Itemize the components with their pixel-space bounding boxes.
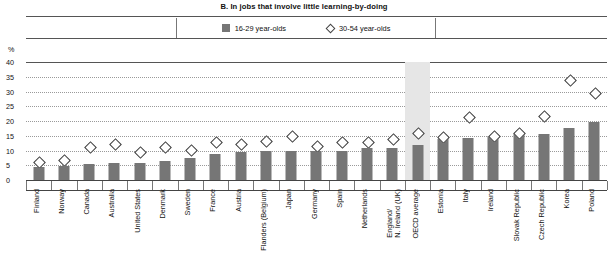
bar <box>437 139 448 180</box>
x-axis-tick <box>354 181 355 190</box>
category-text: Germany <box>311 189 319 219</box>
x-axis-category-label: Canada <box>83 189 95 215</box>
category-text: Austria <box>235 189 243 212</box>
x-axis-category-label: Korea <box>563 189 575 208</box>
x-axis-category-label: OECD average <box>412 189 424 238</box>
bar <box>362 148 373 180</box>
category-text: Netherlands <box>361 189 369 228</box>
bar <box>185 158 196 180</box>
chart-column <box>405 62 430 180</box>
category-text: Norway <box>58 189 66 214</box>
bar <box>336 151 347 181</box>
category-text: Japan <box>285 189 293 209</box>
x-axis-category-label: Japan <box>285 189 297 209</box>
chart-page: B. In jobs that involve little learning-… <box>0 0 608 271</box>
diamond-marker <box>261 135 274 148</box>
bar <box>235 152 246 180</box>
x-axis-category-label: Spain <box>336 189 348 208</box>
category-text: Denmark <box>159 189 167 219</box>
x-axis-tick <box>102 181 103 190</box>
x-axis-tick <box>152 181 153 190</box>
x-axis-tick <box>26 181 27 190</box>
chart-column <box>178 62 203 180</box>
series-layer <box>26 62 607 180</box>
x-axis-category-label: Italy <box>462 189 474 202</box>
x-axis-category-label: Australia <box>108 189 120 217</box>
chart-column <box>531 62 556 180</box>
y-tick-label-40: 40 <box>6 58 24 67</box>
x-axis-category-label: Netherlands <box>361 189 373 228</box>
y-tick-label-0: 0 <box>6 176 24 185</box>
chart-column <box>26 62 51 180</box>
chart-column <box>279 62 304 180</box>
x-axis-tick <box>380 181 381 190</box>
x-axis-tick <box>253 181 254 190</box>
bar <box>589 122 600 180</box>
y-tick-label-5: 5 <box>6 161 24 170</box>
bar <box>286 151 297 181</box>
y-tick-label-25: 25 <box>6 102 24 111</box>
chart-column <box>253 62 278 180</box>
x-axis-tick <box>556 181 557 190</box>
diamond-marker <box>160 142 173 155</box>
x-axis-tick <box>279 181 280 190</box>
chart-title: B. In jobs that involve little learning-… <box>0 2 608 11</box>
chart-column <box>152 62 177 180</box>
category-text: Sweden <box>184 189 192 215</box>
y-tick-label-20: 20 <box>6 117 24 126</box>
x-axis-category-label: Norway <box>58 189 70 214</box>
diamond-marker <box>134 146 147 159</box>
x-axis-tick <box>203 181 204 190</box>
category-text: United States <box>134 189 142 233</box>
title-underline-rule <box>26 16 607 17</box>
diamond-marker <box>84 142 97 155</box>
x-axis-category-label: Finland <box>33 189 45 213</box>
category-text: Finland <box>33 189 41 213</box>
x-axis-category-label: Germany <box>311 189 323 219</box>
x-axis-tick <box>582 181 583 190</box>
x-axis-tick <box>430 181 431 190</box>
category-text: Australia <box>108 189 116 217</box>
x-axis-category-label: United States <box>134 189 146 233</box>
diamond-marker <box>589 87 602 100</box>
bar <box>210 154 221 180</box>
bar <box>159 161 170 180</box>
category-text: Korea <box>563 189 571 208</box>
x-axis-category-label: Poland <box>588 189 600 212</box>
category-text: France <box>209 189 217 212</box>
x-axis-category-label: Czech Republic <box>538 189 550 240</box>
diamond-marker <box>387 133 400 146</box>
category-text: Spain <box>336 189 344 208</box>
bar <box>311 151 322 181</box>
category-text: Estonia <box>437 189 445 213</box>
x-axis-tick <box>506 181 507 190</box>
y-tick-label-10: 10 <box>6 146 24 155</box>
category-text: Slovak Republic <box>513 189 521 241</box>
diamond-marker <box>235 138 248 151</box>
diamond-swatch-icon <box>326 24 334 32</box>
bar <box>134 163 145 180</box>
diamond-marker <box>362 136 375 149</box>
legend-underline-rule <box>26 38 607 39</box>
x-axis-category-label: Estonia <box>437 189 449 213</box>
chart-column <box>127 62 152 180</box>
chart-column <box>329 62 354 180</box>
chart-column <box>354 62 379 180</box>
bar <box>463 138 474 180</box>
x-axis-category-label: Ireland <box>487 189 499 211</box>
category-text: Czech Republic <box>538 189 546 240</box>
x-axis-category-label: France <box>209 189 221 212</box>
y-tick-label-35: 35 <box>6 72 24 81</box>
chart-column <box>77 62 102 180</box>
bar <box>84 164 95 180</box>
bar <box>538 134 549 180</box>
x-axis-tick <box>178 181 179 190</box>
x-axis-category-label: Austria <box>235 189 247 212</box>
chart-column <box>304 62 329 180</box>
chart-column <box>203 62 228 180</box>
x-axis-tick <box>228 181 229 190</box>
chart-column <box>51 62 76 180</box>
y-tick-label-15: 15 <box>6 131 24 140</box>
diamond-marker <box>109 138 122 151</box>
bar <box>260 151 271 180</box>
